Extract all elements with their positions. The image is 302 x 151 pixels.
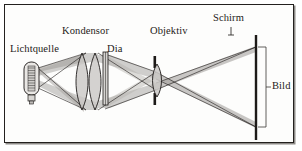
lamp-socket	[28, 95, 35, 101]
label-screen: Schirm	[213, 13, 244, 24]
ray-line-9	[156, 72, 256, 127]
slide-dia	[103, 52, 108, 105]
ray-line-11	[156, 79, 256, 127]
ray-line-12	[156, 47, 256, 83]
label-leader-ticks	[228, 27, 234, 35]
ray-line-10	[156, 47, 256, 90]
lamp-filament-block	[28, 66, 35, 91]
image-extent-bracket	[258, 47, 271, 127]
label-condenser: Kondensor	[62, 26, 109, 37]
light-source-lamp	[24, 62, 39, 104]
ray-diagram-canvas	[0, 0, 302, 151]
label-objective: Objektiv	[150, 26, 188, 37]
ray-beam-lamp-condenser-top	[38, 53, 98, 76]
objective-lens-group	[153, 56, 162, 105]
ray-bundles	[38, 46, 256, 128]
lamp-base-pin	[30, 101, 34, 104]
label-light-source: Lichtquelle	[10, 44, 59, 55]
objective-lens	[153, 64, 162, 97]
optical-diagram-figure: Kondensor Objektiv Schirm Lichtquelle Di…	[0, 0, 302, 151]
label-image: Bild	[272, 81, 291, 92]
label-slide: Dia	[107, 44, 122, 55]
